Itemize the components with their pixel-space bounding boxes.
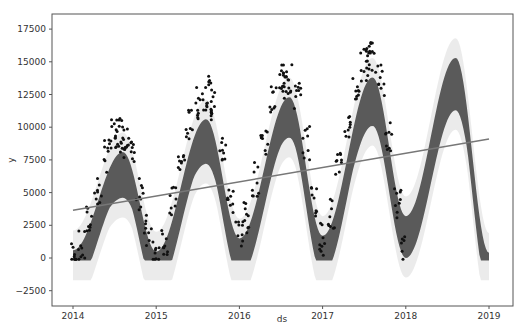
y-tick-label: 12500 [17,90,46,100]
x-tick-label: 2017 [311,311,334,321]
y-tick-label: 5000 [23,188,46,198]
y-tick-label: 7500 [23,155,46,165]
x-tick-label: 2016 [228,311,251,321]
x-tick-label: 2015 [145,311,168,321]
y-tick-label: 17500 [17,24,46,34]
y-tick-label: 0 [40,253,46,263]
forecast-chart: 201420152016201720182019 −25000250050007… [0,0,528,331]
y-tick-label: 10000 [17,122,46,132]
y-axis: −2500025005000750010000125001500017500 [16,24,52,296]
y-axis-label: y [6,157,16,163]
y-tick-label: 15000 [17,57,46,67]
y-tick-label: 2500 [23,220,46,230]
x-tick-label: 2018 [394,311,417,321]
x-axis-label: ds [277,314,288,324]
x-tick-label: 2014 [62,311,85,321]
y-tick-label: −2500 [16,286,47,296]
x-tick-label: 2019 [478,311,501,321]
plot-area [70,38,489,280]
